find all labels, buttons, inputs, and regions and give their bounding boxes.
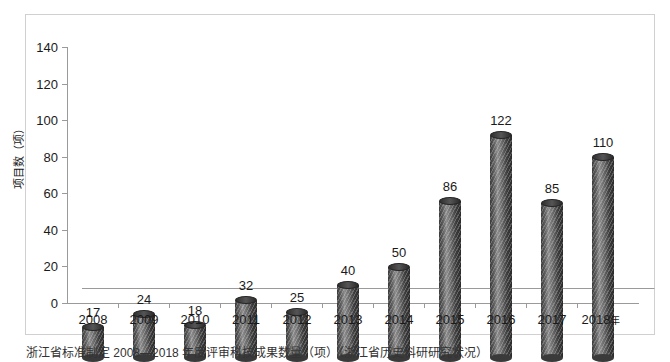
x-tick-label-2011: 2011 xyxy=(218,312,274,327)
x-tick-label-2013: 2013 xyxy=(320,312,376,327)
x-axis-unit-label: 年 xyxy=(610,315,620,326)
x-tick-label-2009: 2009 xyxy=(116,312,172,327)
bar-cap-ellipse xyxy=(541,199,563,207)
x-tick-label-2008: 2008 xyxy=(65,312,121,327)
x-tick-label-2018: 2018年 xyxy=(573,312,629,328)
bar-value-label: 25 xyxy=(277,291,317,304)
bar-value-label: 85 xyxy=(532,182,572,195)
bar-value-label: 122 xyxy=(481,114,521,127)
bar-value-label: 110 xyxy=(583,136,623,149)
bar-cap-ellipse xyxy=(592,153,614,161)
bar-cylinder[interactable] xyxy=(439,201,461,358)
bar-cap-ellipse xyxy=(490,131,512,139)
bar-cap-ellipse xyxy=(388,263,410,271)
bar-value-label: 50 xyxy=(379,246,419,259)
x-tick-label-2018-year: 2018 xyxy=(582,312,611,327)
x-tick-label-2010: 2010 xyxy=(167,312,223,327)
bar-cap-ellipse xyxy=(337,281,359,289)
bar-value-label: 24 xyxy=(124,293,164,306)
bar-value-label: 86 xyxy=(430,180,470,193)
bar-value-label: 40 xyxy=(328,264,368,277)
bar-value-label: 32 xyxy=(226,279,266,292)
figure-caption: 浙江省标准制定 2008—2018 年度评审科技成果数量（项）（浙江省历史科研研… xyxy=(26,346,646,361)
x-tick-label-2016: 2016 xyxy=(473,312,529,327)
x-tick-label-2015: 2015 xyxy=(422,312,478,327)
bar-cap-ellipse xyxy=(439,197,461,205)
x-axis-tick-labels: 2008 2009 2010 2011 2012 2013 2014 2015 … xyxy=(0,312,670,332)
bar-cap-ellipse xyxy=(235,296,257,304)
x-tick-label-2017: 2017 xyxy=(524,312,580,327)
x-tick-label-2012: 2012 xyxy=(269,312,325,327)
x-tick-label-2014: 2014 xyxy=(371,312,427,327)
bar-cylinder[interactable] xyxy=(541,203,563,358)
